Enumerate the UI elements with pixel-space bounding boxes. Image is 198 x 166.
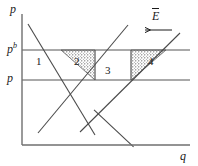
supply-curve-left: [38, 25, 128, 133]
endowment-label-text: E: [152, 9, 159, 23]
x-axis-label: q: [180, 150, 186, 162]
y-axis-label: p: [10, 3, 16, 15]
region-label-2: 2: [74, 56, 80, 67]
region-label-4: 4: [148, 56, 154, 67]
diagram-canvas: [0, 0, 198, 166]
supply-demand-figure: p q pb p 1 2 3 4 E: [0, 0, 198, 166]
demand-curve-right: [87, 110, 140, 147]
price-label-buyer-superscript: b: [13, 41, 17, 50]
region-label-3: 3: [105, 65, 111, 76]
supply-curve-right: [80, 33, 180, 132]
region-label-1: 1: [36, 56, 42, 67]
price-label-seller: p: [7, 72, 13, 84]
price-label-buyer: pb: [7, 42, 17, 55]
endowment-label: E: [152, 8, 159, 22]
